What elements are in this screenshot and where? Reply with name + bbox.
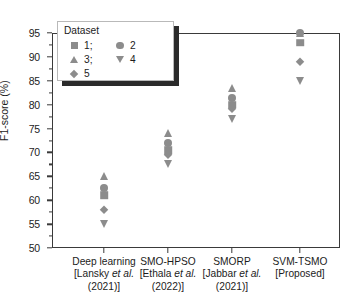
legend-marker-triangle-up [64,53,84,66]
y-tick-minor-mark [49,116,52,117]
x-tick-mark [103,248,104,253]
data-point-triangle-up [228,84,236,92]
data-point-circle [164,139,172,147]
triangle-up-icon [70,56,78,63]
y-tick-label: 55 [0,218,40,230]
y-tick-mark [47,128,52,129]
legend-label: 1; [84,39,110,52]
data-point-square [100,192,108,200]
y-tick-label: 70 [0,146,40,158]
legend-label: 3; [84,53,110,66]
y-tick-mark [47,223,52,224]
y-tick-minor-mark [49,92,52,93]
y-tick-label: 95 [0,27,40,39]
legend-box: Dataset 1;23;45 [57,21,174,81]
y-tick-minor-mark [49,188,52,189]
triangle-down-icon [116,56,124,63]
legend-entries: 1;23;45 [64,39,168,80]
y-tick-label: 85 [0,75,40,87]
y-tick-mark [47,247,52,248]
y-tick-minor-mark [49,140,52,141]
data-point-circle [100,184,108,192]
y-tick-minor-mark [49,44,52,45]
data-point-triangle-down [164,160,172,168]
y-tick-minor-mark [49,212,52,213]
x-category-citation: [Proposed] [252,268,348,280]
legend-marker-triangle-down [110,53,130,66]
y-tick-label: 80 [0,99,40,111]
legend-marker-square [64,39,84,52]
legend-marker-circle [110,39,130,52]
data-point-triangle-down [228,115,236,123]
x-category-label: SVM-TSMO[Proposed] [252,256,348,281]
square-icon [71,42,78,49]
data-point-triangle-up [164,129,172,137]
data-point-triangle-down [296,77,304,85]
y-tick-mark [47,56,52,57]
legend-label: 2 [130,39,150,52]
x-tick-mark [231,248,232,253]
y-tick-minor-mark [49,235,52,236]
x-tick-mark [167,248,168,253]
y-tick-mark [47,32,52,33]
y-tick-label: 60 [0,194,40,206]
x-tick-mark [299,248,300,253]
data-point-square [296,39,304,47]
y-tick-mark [47,104,52,105]
y-tick-minor-mark [49,68,52,69]
legend-label: 4 [130,53,150,66]
data-point-triangle-up [296,29,304,37]
scatter-chart-figure: F1-score (%) 95908580757065605550 Deep l… [0,0,356,303]
legend-title: Dataset [64,25,168,37]
diamond-icon [70,69,78,77]
y-tick-minor-mark [49,164,52,165]
y-tick-mark [47,200,52,201]
circle-icon [116,42,123,49]
y-tick-mark [47,80,52,81]
y-tick-label: 75 [0,123,40,135]
y-tick-label: 90 [0,51,40,63]
legend-label: 5 [84,67,110,80]
legend-marker-diamond [64,67,84,80]
x-category-name: SVM-TSMO [252,256,348,268]
y-tick-label: 65 [0,170,40,182]
x-category-year: (2021)] [184,281,280,293]
y-tick-mark [47,176,52,177]
data-point-triangle-up [100,172,108,180]
data-point-triangle-down [100,220,108,228]
y-tick-label: 50 [0,242,40,254]
data-point-circle [228,94,236,102]
y-tick-mark [47,152,52,153]
